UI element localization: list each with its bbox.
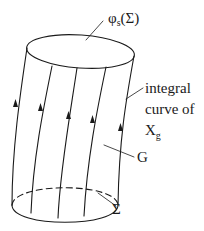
flow-line-left-edge: [12, 48, 27, 205]
top-surface-ellipse: [25, 31, 135, 71]
flow-line-1: [31, 66, 52, 213]
flow-line-2: [58, 68, 77, 218]
label-top-surface: φs(Σ): [108, 11, 139, 28]
arrow-up-icon: [13, 99, 18, 107]
label-integral-curve: integral curve of Xg: [145, 78, 195, 146]
base-surface-front: [12, 205, 118, 222]
arrow-up-icon: [38, 103, 43, 111]
arrow-up-icon: [118, 123, 123, 131]
label-base-surface: Σ: [112, 202, 121, 217]
flow-line-3: [84, 67, 106, 216]
label-tube-G: G: [137, 150, 148, 165]
arrow-up-icon: [90, 115, 95, 123]
leader-tube-G: [104, 145, 134, 157]
